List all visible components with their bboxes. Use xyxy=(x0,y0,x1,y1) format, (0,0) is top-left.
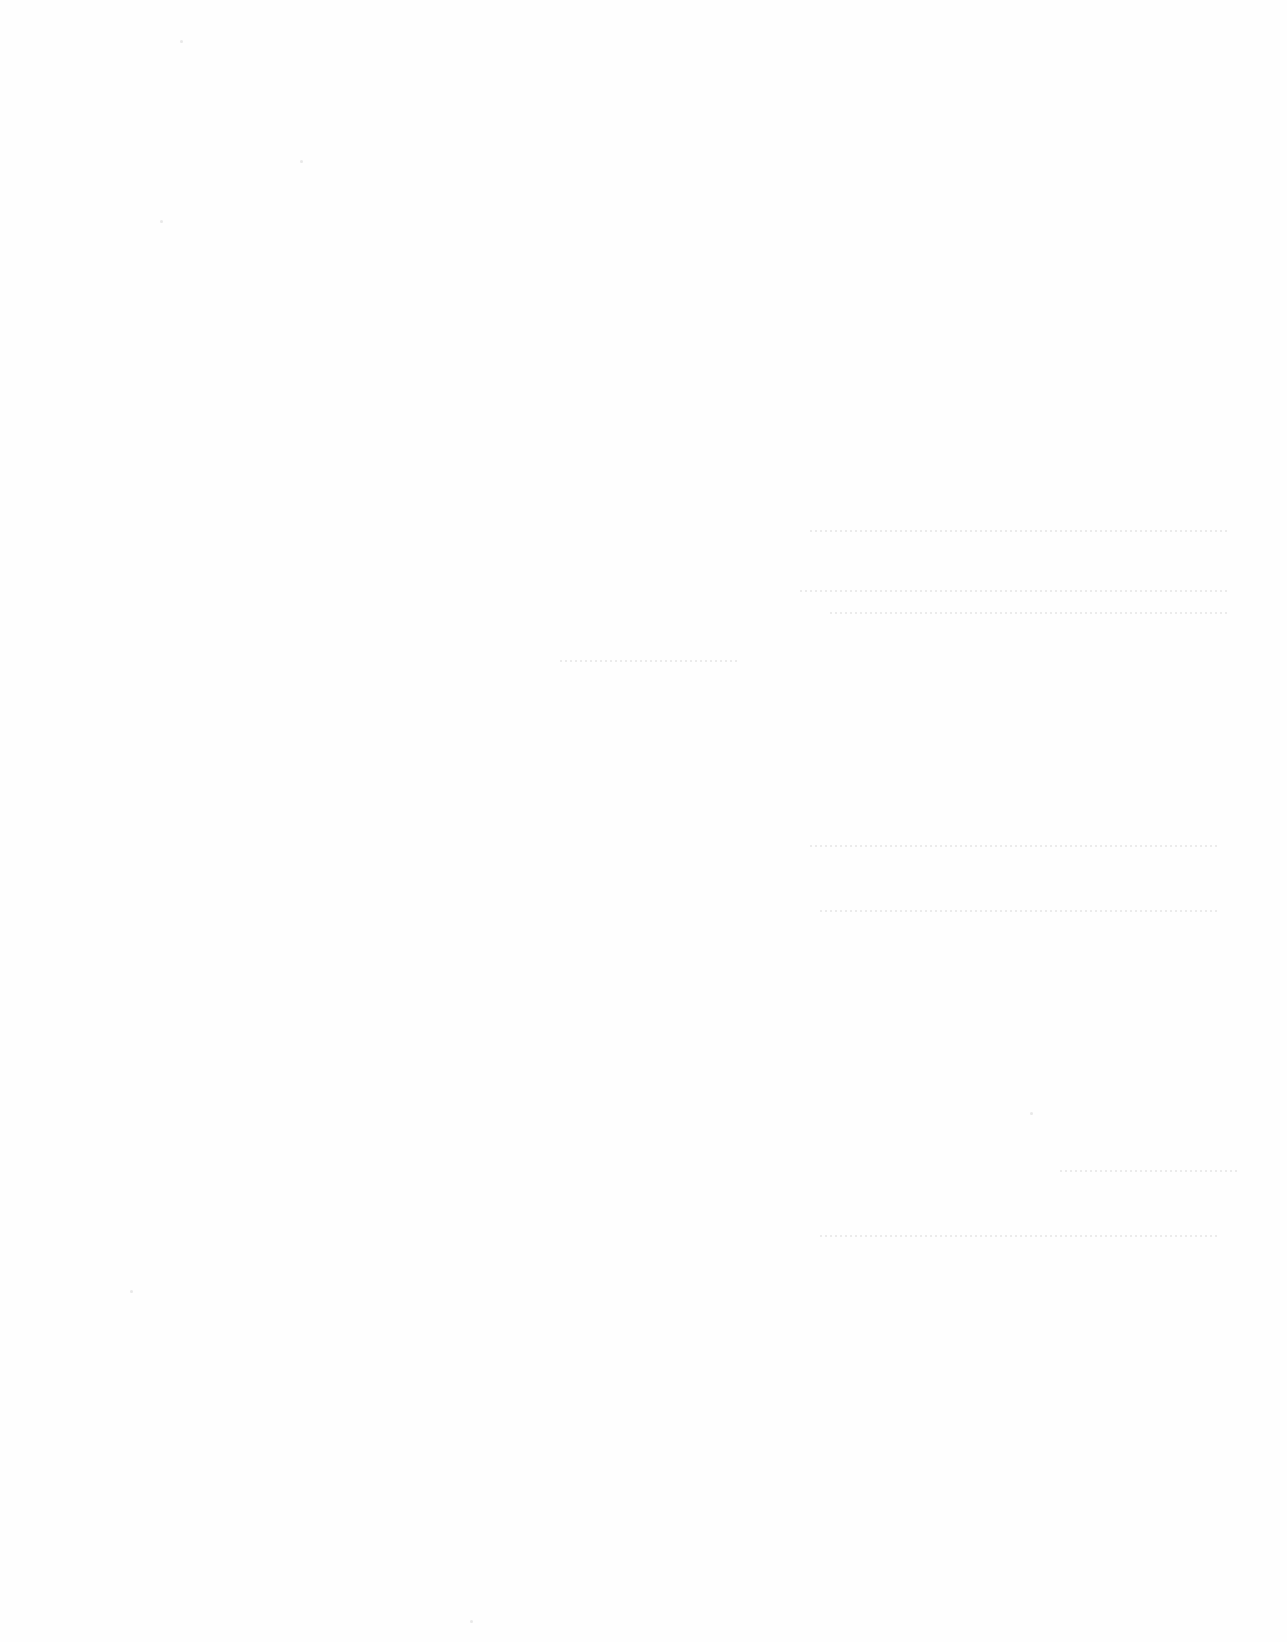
scan-speck xyxy=(470,1620,473,1623)
scan-speck xyxy=(300,160,303,163)
scan-speck xyxy=(180,40,183,43)
scan-speck xyxy=(1030,1112,1033,1115)
show-through-line xyxy=(1060,1170,1240,1172)
show-through-line xyxy=(800,590,1230,592)
scan-speck xyxy=(130,1290,133,1293)
blank-scanned-page xyxy=(0,0,1287,1642)
show-through-line xyxy=(830,612,1230,614)
show-through-line xyxy=(560,660,740,662)
show-through-line xyxy=(810,845,1220,847)
show-through-line xyxy=(820,1235,1220,1237)
show-through-line xyxy=(810,530,1230,532)
show-through-line xyxy=(820,910,1220,912)
scan-speck xyxy=(160,220,163,223)
